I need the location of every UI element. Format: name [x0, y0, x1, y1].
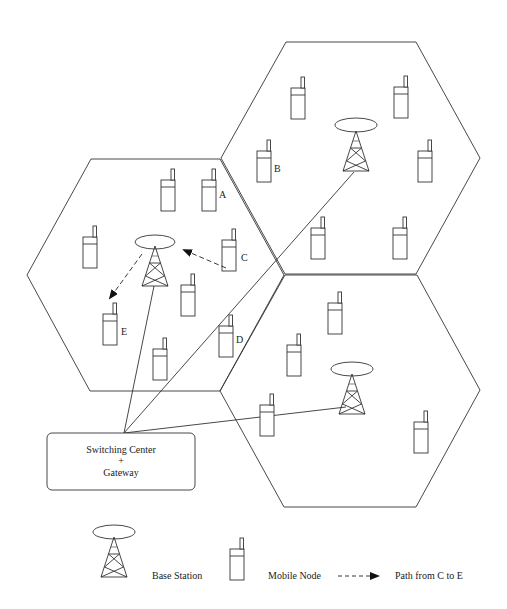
base-station-bottom: [331, 362, 373, 414]
mobile-node-d-icon: [219, 315, 233, 357]
legend-mobile-node-label: Mobile Node: [268, 570, 322, 581]
mobile-nodes: [83, 76, 432, 453]
mobile-node-c-icon: [222, 229, 236, 271]
node-label-b: B: [274, 163, 281, 174]
node-label-e: E: [121, 326, 127, 337]
node-label-d: D: [236, 334, 243, 345]
legend-mobile-node: Mobile Node: [230, 538, 322, 581]
switching-center-gateway: Switching Center + Gateway: [47, 433, 195, 490]
mobile-node-icon: [181, 274, 195, 316]
link-left-bs: [124, 286, 154, 433]
mobile-node-icon: [161, 169, 175, 211]
link-top-bs: [124, 172, 354, 433]
tower-icon: [343, 131, 369, 171]
mobile-node-icon: [418, 140, 432, 182]
node-label-c: C: [241, 252, 248, 263]
legend: Base Station Mobile Node Path from C to …: [93, 525, 463, 581]
base-station-left: [135, 235, 175, 286]
legend-base-station-label: Base Station: [152, 570, 202, 581]
mobile-node-icon: [393, 217, 407, 259]
legend-path: Path from C to E: [338, 570, 463, 581]
switching-center-label: Switching Center: [86, 444, 156, 455]
mobile-node-icon: [230, 538, 244, 580]
switching-center-plus: +: [118, 455, 124, 466]
link-bottom-bs: [124, 407, 346, 433]
mobile-node-e-icon: [103, 303, 117, 345]
legend-base-station: Base Station: [93, 525, 202, 581]
tower-icon: [339, 374, 365, 414]
mobile-node-b-icon: [257, 140, 271, 182]
legend-path-label: Path from C to E: [395, 570, 463, 581]
mobile-node-icon: [311, 217, 325, 259]
base-station-top: [335, 118, 377, 171]
antenna-ellipse-icon: [331, 362, 373, 376]
node-label-a: A: [219, 189, 227, 200]
antenna-ellipse-icon: [335, 118, 377, 132]
mobile-node-icon: [287, 334, 301, 376]
mobile-node-icon: [394, 76, 408, 118]
tower-icon: [101, 537, 127, 577]
mobile-node-icon: [291, 77, 305, 119]
antenna-ellipse-icon: [93, 525, 135, 539]
mobile-node-icon: [328, 292, 342, 334]
tower-icon: [142, 246, 168, 286]
mobile-node-icon: [83, 226, 97, 268]
gateway-label: Gateway: [103, 467, 139, 478]
path-c-to-bs-arrow: [184, 250, 226, 268]
mobile-node-icon: [153, 338, 167, 380]
mobile-node-icon: [414, 411, 428, 453]
cellular-network-diagram: A B C D E Switching Center + Gateway Bas…: [0, 0, 507, 609]
mobile-node-icon: [260, 394, 274, 436]
mobile-node-a-icon: [202, 169, 216, 211]
path-bs-to-e-arrow: [110, 254, 142, 298]
